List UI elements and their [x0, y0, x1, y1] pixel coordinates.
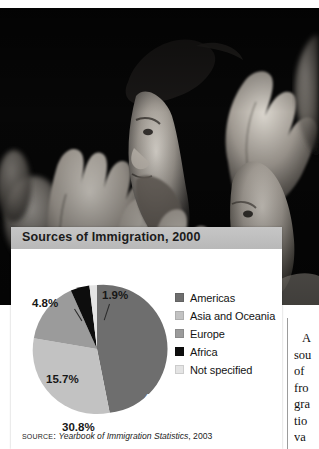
source-label: Source:	[22, 430, 56, 441]
legend-item-africa: Africa	[175, 343, 281, 360]
chart-legend: Americas Asia and Oceania Europe Africa	[175, 289, 281, 379]
pie-label-africa: 4.8%	[32, 297, 58, 309]
legend-swatch-not-specified	[175, 365, 184, 374]
pie-label-not-specified: 1.9%	[102, 289, 128, 301]
chart-panel: Sources of Immigration, 2000	[11, 227, 282, 449]
body-text-line: fro	[294, 380, 319, 397]
chart-titlebar: Sources of Immigration, 2000	[11, 227, 282, 249]
body-text-line: sou	[294, 347, 319, 364]
body-text-line: of	[294, 363, 319, 380]
chart-source: Source: Yearbook of Immigration Statisti…	[22, 430, 212, 441]
body-text-line: gra	[294, 396, 319, 413]
page-canvas: Sources of Immigration, 2000	[0, 0, 319, 449]
legend-label-africa: Africa	[190, 346, 218, 358]
legend-label-asia-and-oceania: Asia and Oceania	[190, 310, 275, 322]
body-text-column: A sou of fro gra tio va	[294, 330, 319, 446]
chart-body: 4.8% 1.9% 15.7% 30.8% 46.8% Americas Asi…	[11, 249, 282, 449]
legend-swatch-americas	[175, 293, 184, 302]
legend-swatch-asia-and-oceania	[175, 311, 184, 320]
pie-label-europe: 15.7%	[46, 373, 79, 385]
legend-label-not-specified: Not specified	[190, 364, 252, 376]
legend-item-americas: Americas	[175, 289, 281, 306]
legend-swatch-europe	[175, 329, 184, 338]
legend-swatch-africa	[175, 347, 184, 356]
source-year: , 2003	[188, 431, 212, 441]
legend-item-europe: Europe	[175, 325, 281, 342]
body-text-line: va	[294, 429, 319, 446]
pie-label-americas: 46.8%	[144, 392, 177, 404]
body-text-line: tio	[294, 413, 319, 430]
legend-label-europe: Europe	[190, 328, 225, 340]
chart-title: Sources of Immigration, 2000	[22, 230, 201, 244]
column-divider-rule	[287, 318, 288, 449]
source-title: Yearbook of Immigration Statistics	[58, 431, 188, 441]
legend-item-not-specified: Not specified	[175, 361, 281, 378]
legend-label-americas: Americas	[190, 292, 235, 304]
pie-chart: 4.8% 1.9% 15.7% 30.8% 46.8%	[19, 271, 179, 426]
legend-item-asia-and-oceania: Asia and Oceania	[175, 307, 281, 324]
body-text-line: A	[294, 330, 319, 347]
